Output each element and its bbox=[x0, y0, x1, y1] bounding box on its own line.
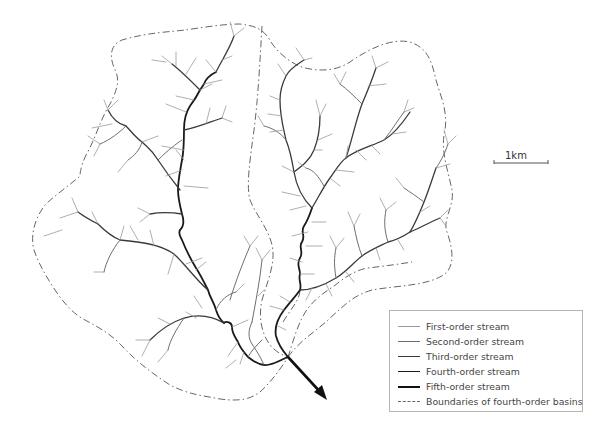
legend-item-second-order: Second-order stream bbox=[398, 334, 524, 349]
dash-dot-line-icon bbox=[398, 401, 420, 402]
legend-label: Fifth-order stream bbox=[426, 381, 510, 392]
third-order-stream bbox=[346, 68, 376, 158]
third-order-stream bbox=[98, 224, 208, 290]
scale-bar-label: 1km bbox=[505, 150, 527, 161]
legend-label: First-order stream bbox=[426, 321, 509, 332]
third-order-stream bbox=[280, 60, 312, 208]
legend-item-third-order: Third-order stream bbox=[398, 349, 514, 364]
legend-item-basin-boundary: Boundaries of fourth-order basins bbox=[398, 394, 583, 409]
fifth-order-stream bbox=[288, 357, 322, 394]
third-order-stream bbox=[172, 64, 200, 90]
third-order-stream bbox=[150, 213, 182, 215]
legend-item-fifth-order: Fifth-order stream bbox=[398, 379, 510, 394]
third-order-stream bbox=[300, 232, 410, 290]
fourth-order-stream-left bbox=[178, 72, 288, 365]
third-order-stream bbox=[410, 168, 436, 232]
third-order-stream bbox=[294, 116, 320, 172]
legend: First-order stream Second-order stream T… bbox=[389, 310, 583, 412]
second-order-line-icon bbox=[398, 341, 420, 342]
third-order-line-icon bbox=[398, 356, 420, 357]
fourth-order-line-icon bbox=[398, 371, 420, 372]
legend-item-fourth-order: Fourth-order stream bbox=[398, 364, 520, 379]
legend-label: Fourth-order stream bbox=[426, 366, 520, 377]
third-order-stream bbox=[184, 118, 222, 130]
legend-label: Third-order stream bbox=[426, 351, 514, 362]
legend-item-first-order: First-order stream bbox=[398, 319, 509, 334]
first-order-line-icon bbox=[398, 326, 420, 327]
third-order-stream bbox=[216, 36, 234, 72]
fifth-order-line-icon bbox=[398, 386, 420, 388]
legend-label: Boundaries of fourth-order basins bbox=[426, 396, 583, 407]
fourth-order-stream-right bbox=[275, 208, 312, 357]
third-order-stream bbox=[312, 112, 410, 208]
legend-label: Second-order stream bbox=[426, 336, 524, 347]
